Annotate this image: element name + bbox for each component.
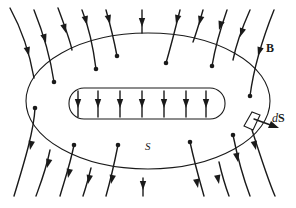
inner-arrowhead — [75, 99, 81, 108]
field-line-end-dot — [231, 133, 236, 138]
inner-arrowhead — [161, 99, 167, 108]
field-line-end-dot — [164, 61, 169, 66]
field-line-arrowhead — [60, 23, 66, 33]
field-line-end-dot — [248, 94, 253, 99]
field-line-end-dot — [188, 140, 193, 145]
field-line-arrowhead — [82, 15, 88, 25]
field-line-end-dot — [115, 54, 120, 59]
field-line-arrowhead — [240, 27, 246, 37]
field-line-end-dot — [52, 80, 57, 85]
field-line — [219, 162, 229, 196]
field-line-arrowhead — [46, 158, 52, 168]
field-line-end-dot — [94, 67, 99, 72]
field-line-end-dot — [210, 64, 215, 69]
flux-diagram: B S dS — [0, 0, 296, 208]
field-line-end-dot — [116, 143, 121, 148]
field-line-arrowhead — [258, 46, 264, 56]
field-line — [252, 130, 275, 196]
field-line-arrowhead — [198, 15, 204, 25]
field-line — [36, 150, 50, 196]
label-ds-s: S — [278, 111, 285, 125]
field-line-arrowhead — [110, 175, 116, 184]
label-ds: dS — [272, 111, 285, 125]
field-line-end-dot — [72, 143, 77, 148]
field-line — [106, 145, 118, 196]
inner-arrowhead — [117, 99, 123, 108]
field-line — [212, 10, 227, 66]
field-line-arrowhead — [24, 46, 30, 56]
inner-tube — [69, 88, 225, 119]
inner-field-lines — [75, 91, 209, 117]
inner-arrowhead — [139, 99, 145, 108]
label-b: B — [266, 41, 274, 55]
field-line-arrowhead — [67, 169, 73, 178]
field-line — [34, 10, 54, 82]
inner-arrowhead — [183, 99, 189, 108]
field-line-arrowhead — [175, 14, 181, 24]
field-line-arrowhead — [214, 175, 220, 184]
field-line-end-dot — [33, 106, 38, 111]
field-line — [193, 10, 203, 42]
label-s: S — [145, 140, 151, 152]
field-line-arrowhead — [140, 181, 146, 190]
field-line — [10, 8, 34, 78]
field-line-arrowhead — [29, 141, 35, 150]
inner-arrowhead — [95, 99, 101, 108]
field-line-arrowhead — [40, 33, 46, 43]
field-line — [190, 142, 204, 196]
inner-arrowhead — [203, 99, 209, 108]
field-line-arrowhead — [251, 140, 257, 150]
field-line-arrowhead — [193, 179, 199, 188]
field-line-arrowhead — [139, 18, 145, 27]
field-line-arrowhead — [105, 14, 111, 24]
field-line — [83, 168, 91, 196]
